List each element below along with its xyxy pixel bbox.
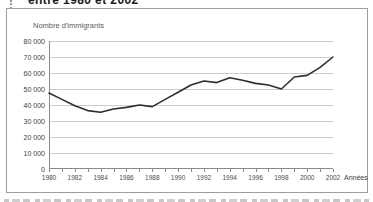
x-tick-1997 [268, 169, 269, 172]
y-tick-label-70000: 70 000 [15, 54, 45, 61]
x-tick-label-1994: 1994 [222, 174, 236, 181]
y-tick-label-20000: 20 000 [15, 134, 45, 141]
x-tick-1991 [191, 169, 192, 172]
x-tick-1996 [256, 169, 257, 172]
clipped-title-text: entre 1980 et 2002 [28, 0, 139, 7]
plot-area [49, 41, 333, 169]
x-tick-1988 [152, 169, 153, 172]
x-tick-1984 [101, 169, 102, 172]
x-tick-1990 [178, 169, 179, 172]
x-tick-1980 [49, 169, 50, 172]
page: entre 1980 et 2002 Nombre d'immigrants 0… [0, 0, 373, 202]
x-tick-label-1982: 1982 [68, 174, 82, 181]
x-tick-label-2002: 2002 [326, 174, 340, 181]
y-axis-title: Nombre d'immigrants [33, 21, 104, 30]
x-tick-label-1992: 1992 [197, 174, 211, 181]
x-tick-label-1986: 1986 [119, 174, 133, 181]
x-tick-1985 [114, 169, 115, 172]
x-tick-1995 [243, 169, 244, 172]
x-tick-label-1988: 1988 [145, 174, 159, 181]
x-tick-label-1990: 1990 [171, 174, 185, 181]
chart-frame: Nombre d'immigrants 010 00020 00030 0004… [6, 8, 368, 193]
cropped-caption-texture [4, 199, 369, 202]
x-tick-2002 [333, 169, 334, 172]
x-tick-label-1998: 1998 [274, 174, 288, 181]
immigrants-line-series [49, 41, 333, 169]
y-tick-label-60000: 60 000 [15, 70, 45, 77]
x-tick-1981 [62, 169, 63, 172]
x-tick-label-2000: 2000 [300, 174, 314, 181]
x-tick-1986 [126, 169, 127, 172]
x-tick-1982 [75, 169, 76, 172]
y-tick-label-0: 0 [15, 166, 45, 173]
x-tick-1999 [294, 169, 295, 172]
y-tick-label-30000: 30 000 [15, 118, 45, 125]
x-tick-1983 [88, 169, 89, 172]
y-tick-label-50000: 50 000 [15, 86, 45, 93]
x-tick-1994 [230, 169, 231, 172]
x-axis-unit-label: Années [344, 174, 368, 181]
y-tick-label-40000: 40 000 [15, 102, 45, 109]
x-tick-1989 [165, 169, 166, 172]
x-tick-1998 [281, 169, 282, 172]
x-tick-2001 [320, 169, 321, 172]
x-tick-1987 [139, 169, 140, 172]
clipped-title: entre 1980 et 2002 [28, 0, 228, 7]
x-tick-label-1980: 1980 [42, 174, 56, 181]
x-tick-label-1996: 1996 [248, 174, 262, 181]
y-tick-label-10000: 10 000 [15, 150, 45, 157]
x-tick-2000 [307, 169, 308, 172]
x-tick-1992 [204, 169, 205, 172]
line-path [49, 57, 333, 112]
y-tick-label-80000: 80 000 [15, 38, 45, 45]
x-tick-1993 [217, 169, 218, 172]
cropped-caption-text [4, 197, 369, 202]
x-tick-label-1984: 1984 [93, 174, 107, 181]
